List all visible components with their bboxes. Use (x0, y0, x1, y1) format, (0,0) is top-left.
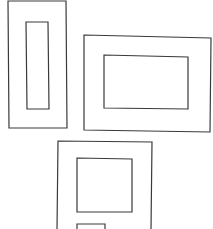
frame-bottom-inner-small (77, 224, 105, 229)
frame-bottom-inner-square (77, 158, 132, 212)
frame-bottom-outer (57, 141, 152, 229)
frame-wide (84, 35, 211, 132)
frame-tall-inner (26, 22, 49, 109)
frame-wide-inner (104, 55, 188, 109)
frame-wide-outer (84, 35, 211, 132)
drawing-canvas (0, 0, 213, 229)
frame-tall (8, 1, 67, 128)
frame-bottom (57, 141, 152, 229)
